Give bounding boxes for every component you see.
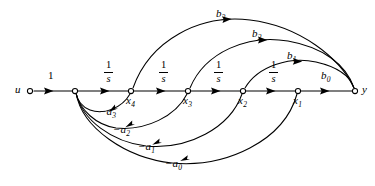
gain-label-integrator-3: 1 s <box>214 60 223 84</box>
node-label-x4: x4 <box>126 95 135 106</box>
node-marker-y[interactable] <box>352 88 357 93</box>
gain-label-b2: b2 <box>252 28 261 39</box>
node-marker-x1[interactable] <box>295 88 300 93</box>
integrator-2-denominator: s <box>159 73 168 84</box>
gain-label-integrator-4: 1 s <box>269 60 278 84</box>
node-marker-x2[interactable] <box>240 88 245 93</box>
node-label-x2: x2 <box>238 95 247 106</box>
integrator-4-denominator: s <box>269 73 278 84</box>
node-marker-x3[interactable] <box>185 88 190 93</box>
gain-label-a3: −a3 <box>99 106 116 117</box>
node-label-x3-subscript: 3 <box>188 100 192 109</box>
gain-label-a2: −a2 <box>113 124 130 135</box>
node-label-x1-subscript: 1 <box>298 100 302 109</box>
integrator-4-numerator: 1 <box>269 60 278 71</box>
gain-label-input: 1 <box>48 70 54 81</box>
node-label-x3: x3 <box>183 95 192 106</box>
integrator-1-numerator: 1 <box>104 60 113 71</box>
node-marker-u[interactable] <box>27 88 32 93</box>
gain-label-b3: b3 <box>216 8 225 19</box>
gain-label-a1-subscript: 1 <box>151 146 155 155</box>
integrator-1-denominator: s <box>104 73 113 84</box>
gain-label-b1-subscript: 1 <box>293 55 297 64</box>
node-label-y: y <box>362 84 367 95</box>
gain-label-b1: b1 <box>287 50 296 61</box>
gain-label-a3-subscript: 3 <box>112 111 116 120</box>
node-label-u: u <box>15 84 21 95</box>
integrator-3-numerator: 1 <box>214 60 223 71</box>
gain-label-b2-subscript: 2 <box>258 33 262 42</box>
gain-label-b3-subscript: 3 <box>222 13 226 22</box>
gain-label-a0: −a0 <box>165 158 182 169</box>
node-label-x1: x1 <box>293 95 302 106</box>
node-label-x4-subscript: 4 <box>131 100 135 109</box>
gain-label-output: b0 <box>321 70 330 81</box>
node-label-x2-subscript: 2 <box>243 100 247 109</box>
gain-label-integrator-2: 1 s <box>159 60 168 84</box>
diagram-canvas <box>0 0 375 186</box>
gain-label-a1: −a1 <box>138 141 155 152</box>
node-marker-x4[interactable] <box>128 88 133 93</box>
node-marker-junction[interactable] <box>72 88 77 93</box>
gain-label-a2-subscript: 2 <box>126 129 130 138</box>
gain-label-output-subscript: 0 <box>327 75 331 84</box>
integrator-3-denominator: s <box>214 73 223 84</box>
signal-flow-graph-diagram: u x4 x3 x2 x1 y 1 1 s 1 s 1 s 1 s b0 <box>0 0 375 186</box>
integrator-2-numerator: 1 <box>159 60 168 71</box>
gain-label-a0-subscript: 0 <box>178 163 182 172</box>
gain-label-integrator-1: 1 s <box>104 60 113 84</box>
